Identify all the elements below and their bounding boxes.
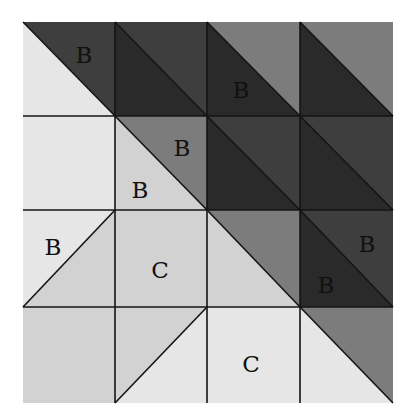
cell-label: B [174,135,191,161]
cell-label: C [242,351,260,377]
cell-label: B [359,231,376,257]
cell-label: B [233,77,250,103]
cell-label: B [76,42,93,68]
cell-r1c0 [23,116,115,210]
cell-label: B [45,234,62,260]
cell-label: B [318,272,335,298]
cell-label: B [132,177,149,203]
quilt-grid-diagram: BBBBBCBBC [0,0,416,419]
cell-r3c0 [23,307,115,403]
cell-label: C [151,257,169,283]
